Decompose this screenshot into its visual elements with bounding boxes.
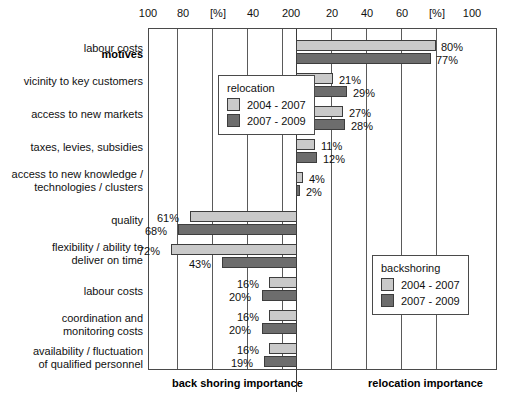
- bar-value-relocation-taxes-2004: 11%: [321, 141, 342, 152]
- bar-backshoring-flexibility-2004: [171, 244, 297, 255]
- bar-value-backshoring-availability-2007: 19%: [231, 358, 253, 369]
- gridline-left-60: [212, 29, 213, 369]
- bar-value-backshoring-coordination-2007: 20%: [229, 325, 251, 336]
- category-label-labour-costs-backshoring: labour costs: [0, 285, 143, 298]
- category-label-taxes-levies-subsidies: taxes, levies, subsidies: [0, 141, 143, 154]
- bar-relocation-taxes-2007: [296, 152, 317, 163]
- legend-relocation-item-2007: 2007 - 2009: [227, 114, 306, 127]
- bar-backshoring-availability-2007: [264, 356, 297, 367]
- bar-relocation-labour-costs-2004: [296, 40, 436, 51]
- bar-value-relocation-vicinity-2007: 29%: [353, 88, 375, 99]
- legend-backshoring-label-2007: 2007 - 2009: [401, 295, 460, 307]
- legend-relocation-label-2007: 2007 - 2009: [247, 115, 306, 127]
- gridline-right-80: [436, 29, 437, 369]
- category-label-access-new-knowledge: access to new knowledge / technologies /…: [0, 168, 143, 193]
- axis-tick-left-percent: [%]: [198, 6, 238, 20]
- bar-backshoring-quality-2004: [190, 211, 297, 222]
- bar-value-relocation-new-knowledge-2004: 4%: [309, 174, 325, 185]
- bar-value-backshoring-flexibility-2004: 72%: [138, 246, 160, 257]
- category-label-labour-costs-relocation: labour costs: [0, 42, 143, 55]
- axis-tick-right-percent: [%]: [417, 6, 457, 20]
- bar-relocation-new-knowledge-2004: [296, 172, 303, 183]
- legend-swatch-light-icon: [381, 278, 394, 291]
- bar-value-backshoring-labour-costs-2007: 20%: [229, 292, 251, 303]
- category-label-quality: quality: [0, 214, 143, 227]
- bar-backshoring-labour-costs-2004: [269, 277, 297, 288]
- category-label-flexibility-delivery: flexibility / ability to deliver on time: [0, 241, 143, 266]
- gridline-left-80: [177, 29, 178, 369]
- legend-swatch-light-icon: [227, 98, 240, 111]
- bar-value-relocation-new-markets-2004: 27%: [349, 108, 371, 119]
- bar-value-relocation-labour-costs-2007: 77%: [436, 55, 458, 66]
- bar-value-backshoring-flexibility-2007: 43%: [189, 259, 211, 270]
- bar-value-relocation-vicinity-2004: 21%: [339, 75, 361, 86]
- axis-tick-left-40: 40: [233, 6, 273, 20]
- bar-backshoring-availability-2004: [269, 343, 297, 354]
- legend-relocation-item-2004: 2004 - 2007: [227, 98, 306, 111]
- axis-tick-left-80: 80: [163, 6, 203, 20]
- bar-value-relocation-new-knowledge-2007: 2%: [306, 187, 322, 198]
- bar-relocation-new-knowledge-2007: [296, 185, 300, 196]
- legend-backshoring: backshoring 2004 - 2007 2007 - 2009: [372, 255, 469, 315]
- axis-tick-right-40: 40: [347, 6, 387, 20]
- gridline-right-60: [401, 29, 402, 369]
- footer-caption-backshoring: back shoring importance: [172, 377, 303, 389]
- bar-backshoring-coordination-2007: [262, 323, 297, 334]
- category-label-vicinity-customers: vicinity to key customers: [0, 75, 143, 88]
- legend-relocation: relocation 2004 - 2007 2007 - 2009: [218, 75, 315, 135]
- legend-backshoring-item-2004: 2004 - 2007: [381, 278, 460, 291]
- bar-backshoring-quality-2007: [178, 224, 297, 235]
- footer-caption-relocation: relocation importance: [368, 377, 483, 389]
- axis-tick-zero: 0: [277, 6, 317, 20]
- top-axis-tick-labels: 100 80 [%] 40 20 0 20 40 60 [%] 100: [0, 6, 523, 24]
- bar-value-backshoring-availability-2004: 16%: [237, 345, 259, 356]
- category-label-column: motives labour costs vicinity to key cus…: [0, 28, 143, 370]
- bar-backshoring-coordination-2004: [269, 310, 297, 321]
- category-label-access-new-markets: access to new markets: [0, 108, 143, 121]
- chart-container: 100 80 [%] 40 20 0 20 40 60 [%] 100 moti…: [0, 0, 523, 410]
- category-label-availability-personnel: availability / fluctuation of qualified …: [0, 345, 143, 370]
- axis-tick-right-100: 100: [452, 6, 492, 20]
- legend-backshoring-label-2004: 2004 - 2007: [401, 279, 460, 291]
- bar-value-relocation-labour-costs-2004: 80%: [441, 42, 463, 53]
- axis-tick-right-20: 20: [312, 6, 352, 20]
- bar-value-backshoring-quality-2004: 61%: [157, 213, 179, 224]
- category-label-coordination-costs: coordination and monitoring costs: [0, 312, 143, 337]
- legend-swatch-dark-icon: [381, 294, 394, 307]
- legend-relocation-title: relocation: [227, 82, 306, 94]
- legend-relocation-label-2004: 2004 - 2007: [247, 99, 306, 111]
- legend-swatch-dark-icon: [227, 114, 240, 127]
- legend-backshoring-title: backshoring: [381, 262, 460, 274]
- bar-backshoring-labour-costs-2007: [262, 290, 297, 301]
- plot-area: 80% 77% 21% 29% 27% 28% 11% 12% 4% 2% 61…: [148, 28, 497, 370]
- axis-tick-left-100: 100: [128, 6, 168, 20]
- bar-backshoring-flexibility-2007: [222, 257, 297, 268]
- bar-value-relocation-new-markets-2007: 28%: [351, 121, 373, 132]
- gridline-right-40: [366, 29, 367, 369]
- bar-relocation-labour-costs-2007: [296, 53, 431, 64]
- axis-tick-right-60: 60: [382, 6, 422, 20]
- legend-backshoring-item-2007: 2007 - 2009: [381, 294, 460, 307]
- bar-value-relocation-taxes-2007: 12%: [323, 154, 345, 165]
- bar-relocation-taxes-2004: [296, 139, 315, 150]
- bar-value-backshoring-quality-2007: 68%: [145, 226, 167, 237]
- bar-value-backshoring-coordination-2004: 16%: [237, 312, 259, 323]
- bar-value-backshoring-labour-costs-2004: 16%: [237, 279, 259, 290]
